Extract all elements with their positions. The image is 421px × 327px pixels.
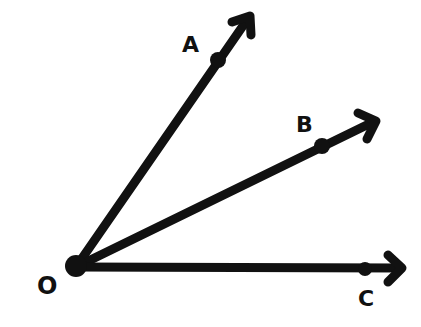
vertex-o: [65, 255, 87, 277]
diagram-canvas: [0, 0, 421, 327]
point-a: [210, 52, 226, 68]
label-b: B: [296, 114, 313, 136]
ray-oa: [76, 16, 251, 267]
label-c: C: [358, 288, 374, 310]
ray-oc: [76, 255, 402, 282]
label-o: O: [37, 274, 57, 298]
point-c: [358, 262, 372, 276]
point-b: [314, 138, 330, 154]
label-a: A: [182, 34, 199, 56]
ray-ob: [76, 113, 376, 267]
